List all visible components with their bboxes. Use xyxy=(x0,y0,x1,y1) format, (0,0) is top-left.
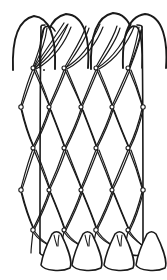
lattice-node xyxy=(126,66,130,70)
lattice-node xyxy=(79,188,83,192)
braided-mesh-drawing: Braided tubular mesh line drawing Black … xyxy=(0,0,167,280)
lattice-node xyxy=(47,188,51,192)
lattice-node xyxy=(31,228,35,232)
lattice-node xyxy=(126,146,130,150)
lattice-node xyxy=(62,146,66,150)
lattice-node xyxy=(126,228,130,232)
lattice-node xyxy=(19,188,23,192)
lattice-node xyxy=(94,146,98,150)
lattice-node xyxy=(110,188,114,192)
figure-container: Braided tubular mesh line drawing Black … xyxy=(0,0,167,280)
lattice-node xyxy=(94,66,98,70)
lattice-node xyxy=(141,188,145,192)
lattice-node xyxy=(110,105,114,109)
lattice-node xyxy=(79,105,83,109)
lattice-node xyxy=(62,228,66,232)
lattice-node xyxy=(31,146,35,150)
lattice-node xyxy=(62,66,66,70)
lattice-node xyxy=(141,105,145,109)
lattice-node xyxy=(31,66,35,70)
lattice-node xyxy=(19,105,23,109)
lattice-node xyxy=(47,105,51,109)
lattice-node xyxy=(94,228,98,232)
